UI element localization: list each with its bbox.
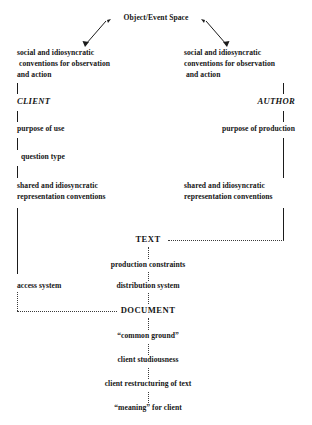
node-left-representation-line1: shared and idiosyncratic <box>17 181 98 192</box>
node-client: CLIENT <box>17 96 50 107</box>
node-object-event-space: Object/Event Space <box>124 13 189 24</box>
connector-client-to-purpose-of-use <box>17 111 18 122</box>
node-right-conventions-line1: social and idiosyncratic <box>184 48 261 59</box>
connector-document-to-common-ground <box>148 318 149 330</box>
diagram-canvas: Object/Event Space social and idiosyncra… <box>0 0 312 425</box>
connector-access-system-down <box>17 292 18 311</box>
connector-access-system-to-document <box>17 311 117 312</box>
node-right-conventions-line2: conventions for observation <box>184 59 275 70</box>
node-document: DOCUMENT <box>121 305 176 316</box>
connector-author-to-purpose-of-production <box>283 111 284 122</box>
node-left-representation-line2: representation conventions <box>17 192 106 203</box>
connector-client-studiousness-to-client-restructuring <box>148 368 149 379</box>
node-author: AUTHOR <box>257 96 295 107</box>
node-production-constraints: production constraints <box>111 260 186 271</box>
node-purpose-of-production: purpose of production <box>222 124 295 135</box>
node-purpose-of-use: purpose of use <box>17 124 65 135</box>
connector-right-representation-to-text <box>283 208 284 240</box>
connector-text-to-production-constraints <box>148 247 149 259</box>
node-client-studiousness: client studiousness <box>117 355 178 366</box>
connector-text-to-right-column <box>168 240 284 241</box>
connector-purpose-of-use-to-question-type <box>17 138 18 150</box>
node-right-representation-line2: representation conventions <box>184 192 273 203</box>
node-text: TEXT <box>135 234 160 245</box>
connector-production-constraints-to-distribution-system <box>148 272 149 281</box>
connector-distribution-system-to-document <box>148 293 149 304</box>
node-client-restructuring: client restructuring of text <box>105 379 192 390</box>
node-left-conventions-line2: conventions for observation <box>19 59 110 70</box>
node-left-conventions-line1: social and idiosyncratic <box>17 48 94 59</box>
node-left-conventions-line3: and action <box>17 70 51 81</box>
connector-left-representation-to-access-system <box>17 208 18 274</box>
node-question-type: question type <box>21 152 65 163</box>
connector-common-ground-to-client-studiousness <box>148 344 149 355</box>
node-right-representation-line1: shared and idiosyncratic <box>184 181 265 192</box>
node-access-system: access system <box>17 281 61 292</box>
node-common-ground: “common ground” <box>117 331 179 342</box>
connector-left-conventions-to-client <box>17 83 18 94</box>
connector-question-type-to-representation <box>17 166 18 178</box>
connector-purpose-of-production-to-representation <box>283 138 284 178</box>
connector-client-restructuring-to-meaning <box>148 392 149 403</box>
node-distribution-system: distribution system <box>116 281 179 292</box>
connector-right-conventions-to-author <box>283 83 284 94</box>
node-right-conventions-line3: and action <box>186 70 220 81</box>
node-meaning-for-client: “meaning” for client <box>114 403 182 414</box>
